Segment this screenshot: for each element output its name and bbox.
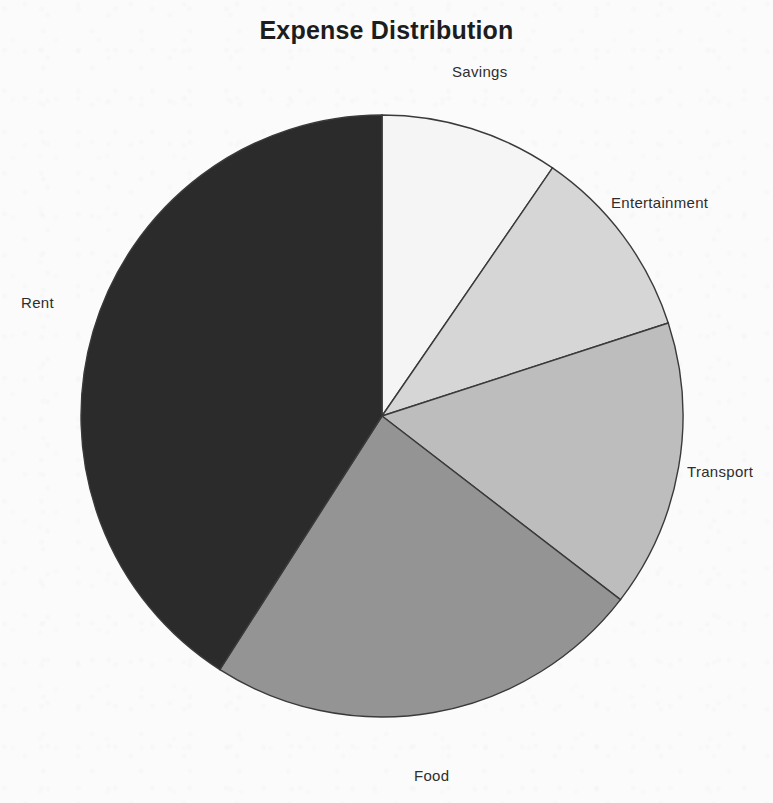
slice-label-savings: Savings xyxy=(452,63,507,80)
pie-chart-figure: Expense Distribution Savings Entertainme… xyxy=(0,0,773,803)
slice-label-entertainment: Entertainment xyxy=(611,194,708,211)
slice-label-transport: Transport xyxy=(687,463,753,480)
pie-slice-group xyxy=(81,115,683,717)
slice-label-rent: Rent xyxy=(21,294,54,311)
slice-label-food: Food xyxy=(414,767,449,784)
pie-chart-plot xyxy=(0,0,773,803)
